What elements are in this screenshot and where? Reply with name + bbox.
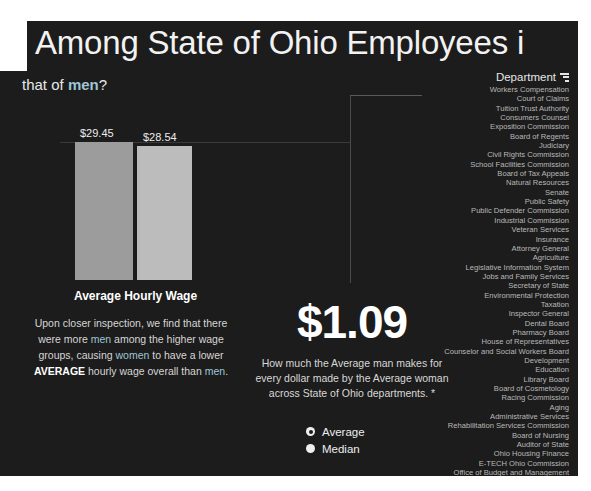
department-list-item[interactable]: Attorney General [358, 244, 569, 253]
radio-label-median: Median [322, 443, 360, 455]
department-list-item[interactable]: Dental Board [358, 319, 569, 328]
department-list-item[interactable]: Ohio Housing Finance [358, 449, 569, 458]
department-list-item[interactable]: Rehabilitation Services Commission [358, 421, 569, 430]
blurb-text-5: . [225, 365, 228, 377]
department-list-item[interactable]: Workers Compensation [358, 85, 569, 94]
radio-icon-average[interactable] [306, 427, 315, 436]
sort-descending-icon[interactable] [560, 73, 569, 82]
department-list-item[interactable]: Tuition Trust Authority [358, 104, 569, 113]
department-list-item[interactable]: Board of Tax Appeals [358, 169, 569, 178]
department-list-item[interactable]: Education [358, 365, 569, 374]
bar-value-label-men: $29.45 [80, 127, 114, 139]
radio-icon-median[interactable] [306, 444, 315, 453]
department-filter-panel: Department Workers CompensationCourt of … [358, 71, 578, 476]
department-list-item[interactable]: Counselor and Social Workers Board [358, 347, 569, 356]
blurb-highlight-men-2: men [205, 365, 225, 377]
department-list-item[interactable]: Environmental Protection [358, 291, 569, 300]
dashboard-root: Among State of Ohio Employees i that of … [0, 0, 591, 491]
department-list-item[interactable]: Library Board [358, 375, 569, 384]
department-list-item[interactable]: Civil Rights Commission [358, 150, 569, 159]
department-list-item[interactable]: Secretary of State [358, 281, 569, 290]
department-list-item[interactable]: Veteran Services [358, 225, 569, 234]
department-list-item[interactable]: Development [358, 356, 569, 365]
department-list-item[interactable]: Legislative Information System [358, 263, 569, 272]
department-list-item[interactable]: Aging [358, 403, 569, 412]
blurb-highlight-men-1: men [91, 333, 111, 345]
blurb-highlight-women: women [116, 349, 150, 361]
chart-title: Average Hourly Wage [68, 289, 203, 303]
department-list-item[interactable]: Public Defender Commission [358, 206, 569, 215]
dashboard-title-bar: Among State of Ohio Employees i [27, 21, 578, 71]
department-list-item[interactable]: Pharmacy Board [358, 328, 569, 337]
divider-vertical [350, 95, 351, 283]
insight-blurb: Upon closer inspection, we find that the… [22, 315, 240, 379]
department-list-item[interactable]: Natural Resources [358, 178, 569, 187]
department-list-item[interactable]: Taxation [358, 300, 569, 309]
department-list-item[interactable]: Exposition Commission [358, 122, 569, 131]
department-header-label: Department [496, 71, 556, 83]
department-list-item[interactable]: Public Safety [358, 197, 569, 206]
department-list-item[interactable]: Board of Cosmetology [358, 384, 569, 393]
department-list-item[interactable]: School Facilities Commission [358, 160, 569, 169]
department-list-item[interactable]: Board of Nursing [358, 431, 569, 440]
department-list-item[interactable]: Racing Commission [358, 393, 569, 402]
department-list-item[interactable]: Senate [358, 188, 569, 197]
department-list-item[interactable]: Judiciary [358, 141, 569, 150]
bar-women[interactable] [137, 146, 192, 280]
department-list-item[interactable]: Court of Claims [358, 94, 569, 103]
department-header[interactable]: Department [358, 71, 569, 83]
department-list-item[interactable]: Jobs and Family Services [358, 272, 569, 281]
bar-men[interactable] [75, 142, 133, 280]
dashboard-body-panel: that of men? $29.45 $28.54 Average Hourl… [0, 71, 578, 476]
department-list-item[interactable]: House of Representatives [358, 337, 569, 346]
department-list-item[interactable]: E-TECH Ohio Commission [358, 459, 569, 468]
department-list-item[interactable]: Auditor of State [358, 440, 569, 449]
department-list-item[interactable]: Industrial Commission [358, 216, 569, 225]
blurb-bold-average: AVERAGE [34, 365, 85, 377]
department-list-item[interactable]: Board of Regents [358, 132, 569, 141]
blurb-text-4: hourly wage overall than [85, 365, 205, 377]
department-list-item[interactable]: Consumers Counsel [358, 113, 569, 122]
department-list-item[interactable]: Inspector General [358, 309, 569, 318]
department-list[interactable]: Workers CompensationCourt of ClaimsTuiti… [358, 85, 569, 476]
department-list-item[interactable]: Office of Budget and Management [358, 468, 569, 476]
blurb-text-3: to have a lower [149, 349, 223, 361]
department-list-item[interactable]: Administrative Services [358, 412, 569, 421]
department-list-item[interactable]: Agriculture [358, 253, 569, 262]
bar-value-label-women: $28.54 [143, 131, 177, 143]
department-list-item[interactable]: Insurance [358, 235, 569, 244]
page-title: Among State of Ohio Employees i [35, 21, 524, 68]
